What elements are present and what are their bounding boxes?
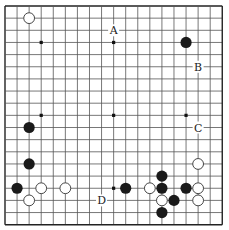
- white-stone: [193, 159, 204, 170]
- star-point: [40, 41, 43, 44]
- board-label-b: B: [194, 61, 202, 74]
- star-point: [112, 41, 115, 44]
- board-label-d: D: [97, 194, 106, 207]
- black-stone: [156, 171, 167, 182]
- black-stone: [180, 37, 191, 48]
- black-stone: [156, 183, 167, 194]
- board-label-c: C: [194, 122, 202, 135]
- black-stone: [156, 207, 167, 218]
- star-point: [112, 187, 115, 190]
- white-stone: [193, 183, 204, 194]
- white-stone: [24, 13, 35, 24]
- black-stone: [24, 122, 35, 133]
- white-stone: [144, 183, 155, 194]
- board-label-a: A: [109, 24, 119, 37]
- black-stone: [24, 158, 35, 169]
- go-board-diagram: ABCD: [0, 0, 229, 230]
- go-board: ABCD: [0, 0, 229, 230]
- white-stone: [157, 195, 168, 206]
- white-stone: [36, 183, 47, 194]
- black-stone: [120, 183, 131, 194]
- star-point: [112, 114, 115, 117]
- white-stone: [24, 195, 35, 206]
- black-stone: [180, 183, 191, 194]
- star-point: [40, 114, 43, 117]
- black-stone: [11, 183, 22, 194]
- white-stone: [60, 183, 71, 194]
- black-stone: [168, 195, 179, 206]
- white-stone: [193, 195, 204, 206]
- star-point: [184, 114, 187, 117]
